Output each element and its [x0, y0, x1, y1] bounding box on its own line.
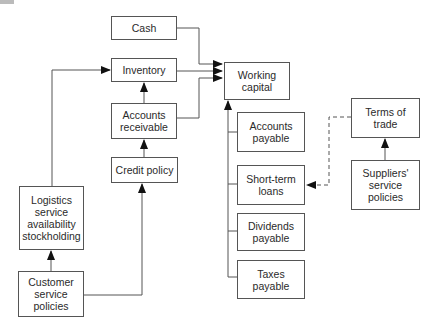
node-customer-service-policies: Customer service policies [18, 271, 84, 317]
node-terms-of-trade: Terms of trade [351, 98, 420, 138]
edge-cash-to-working-capital [177, 28, 222, 64]
node-label: Terms of trade [365, 106, 405, 130]
node-taxes-payable: Taxes payable [237, 260, 305, 299]
node-accounts-receivable: Accounts receivable [111, 103, 177, 139]
node-label: Taxes payable [253, 268, 290, 292]
node-label: Dividends payable [248, 220, 294, 244]
node-working-capital: Working capital [224, 62, 290, 100]
node-label: Inventory [122, 64, 165, 76]
node-label: Customer service policies [28, 276, 74, 312]
node-label: Working capital [238, 69, 276, 93]
node-logistics-service: Logistics service availability stockhold… [19, 186, 84, 250]
edge-customer-to-credit [84, 184, 142, 295]
edge-receivable-to-working-capital [177, 78, 222, 118]
node-accounts-payable: Accounts payable [237, 112, 305, 152]
node-label: Short-term loans [246, 173, 296, 197]
node-cash: Cash [111, 16, 177, 40]
working-capital-diagram: Cash Inventory Accounts receivable Credi… [0, 0, 435, 334]
node-inventory: Inventory [111, 58, 177, 82]
edge-logistics-to-inventory [52, 70, 110, 186]
node-label: Credit policy [116, 164, 174, 176]
edge-terms-to-loans [307, 117, 351, 185]
node-label: Accounts receivable [120, 109, 168, 133]
node-label: Logistics service availability stockhold… [22, 194, 80, 242]
node-label: Accounts payable [249, 120, 292, 144]
node-suppliers-service-policies: Suppliers' service policies [351, 160, 420, 210]
node-short-term-loans: Short-term loans [237, 165, 305, 205]
node-dividends-payable: Dividends payable [237, 213, 305, 251]
node-label: Cash [132, 22, 157, 34]
node-credit-policy: Credit policy [111, 157, 178, 183]
node-label: Suppliers' service policies [363, 167, 409, 203]
